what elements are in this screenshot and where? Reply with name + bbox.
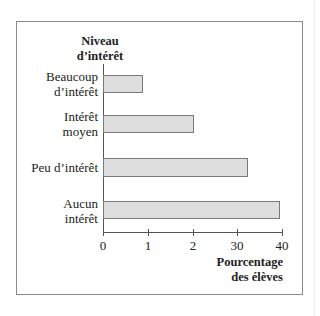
x-tick-2 bbox=[193, 229, 194, 236]
category-label-peu: Peu d’intérêt bbox=[31, 160, 98, 175]
x-axis-title: Pourcentage des élèves bbox=[217, 255, 283, 285]
page-edge-line bbox=[314, 0, 315, 316]
x-tick-0 bbox=[103, 229, 104, 236]
x-tick-label: 2 bbox=[178, 238, 208, 254]
y-axis-title: Niveau d’intérêt bbox=[60, 34, 140, 64]
x-tick-label: 40 bbox=[267, 238, 297, 254]
category-label-beaucoup: Beaucoup d’intérêt bbox=[46, 69, 98, 99]
x-tick-label: 30 bbox=[222, 238, 252, 254]
bar-aucun-interet bbox=[103, 201, 280, 219]
bar-peu-interet bbox=[103, 158, 248, 177]
category-label-aucun: Aucun intérêt bbox=[63, 196, 98, 226]
bar-beaucoup-interet bbox=[103, 75, 143, 93]
category-label-moyen: Intérêt moyen bbox=[63, 109, 98, 139]
x-tick-label: 1 bbox=[133, 238, 163, 254]
x-tick-30 bbox=[237, 229, 238, 236]
x-tick-label: 0 bbox=[88, 238, 118, 254]
bar-interet-moyen bbox=[103, 115, 194, 133]
x-tick-40 bbox=[282, 229, 283, 236]
x-tick-1 bbox=[148, 229, 149, 236]
